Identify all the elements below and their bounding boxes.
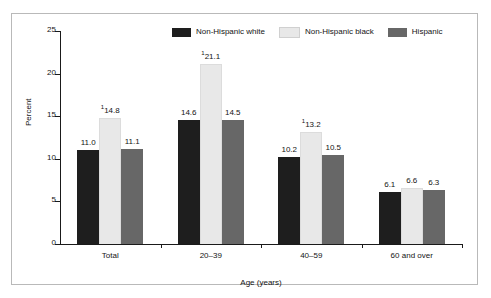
x-axis-category-label: 60 and over [391, 252, 433, 260]
x-tick-mark [462, 244, 463, 248]
x-axis-category-label: 40–59 [300, 252, 322, 260]
bar-group: 14.6121.114.5 [178, 31, 244, 244]
bar-group-bars: 10.2113.210.5 [278, 31, 344, 244]
bar-group-bars: 14.6121.114.5 [178, 31, 244, 244]
bar-group-bars: 11.0114.811.1 [77, 31, 143, 244]
bar-value-label: 121.1 [201, 53, 220, 61]
bar-rect [121, 149, 143, 244]
y-tick-label: 25 [47, 26, 56, 34]
y-axis-title: Percent [24, 98, 33, 126]
bar-value-label: 114.8 [101, 107, 120, 115]
x-tick-mark [261, 244, 262, 248]
bar-rect [300, 132, 322, 244]
x-axis-category-label: 20–39 [200, 252, 222, 260]
bar-rect [77, 150, 99, 244]
bar-group: 6.16.66.3 [379, 31, 445, 244]
bar-value-label: 14.6 [181, 109, 197, 117]
bar-value-label: 113.2 [302, 121, 321, 129]
bar-rect [222, 120, 244, 244]
bar-value-label: 6.3 [428, 179, 439, 187]
bar-value-label: 14.5 [225, 109, 241, 117]
bar-value-label: 11.1 [125, 138, 140, 146]
bar-value-label: 11.0 [81, 139, 96, 147]
bar-value-label: 6.6 [406, 177, 417, 185]
bar-rect [322, 155, 344, 244]
bar-value-footnote-marker: 1 [302, 118, 305, 124]
bar-value-label: 10.2 [281, 146, 297, 154]
x-tick-mark [161, 244, 162, 248]
bar-value-label: 6.1 [384, 181, 395, 189]
chart-plot-area: Percent 0510152025 11.0114.811.1Total14.… [60, 31, 462, 244]
chart-figure-frame: Non-Hispanic white Non-Hispanic black Hi… [11, 13, 478, 285]
bar-rect [423, 190, 445, 244]
bar-rect [379, 192, 401, 244]
bar-rect [401, 188, 423, 244]
bar-rect [178, 120, 200, 244]
x-tick-mark [362, 244, 363, 248]
y-axis-line [60, 31, 61, 244]
bar-value-footnote-marker: 1 [101, 104, 104, 110]
bar-value-label: 10.5 [325, 144, 341, 152]
y-tick-label: 15 [47, 111, 56, 119]
x-axis-title: Age (years) [240, 278, 281, 287]
bar-group: 10.2113.210.5 [278, 31, 344, 244]
bar-rect [99, 118, 121, 244]
y-tick-label: 20 [47, 69, 56, 77]
bar-group-bars: 6.16.66.3 [379, 31, 445, 244]
bar-rect [278, 157, 300, 244]
y-tick-label: 10 [47, 154, 56, 162]
bar-rect [200, 64, 222, 244]
x-axis-category-label: Total [102, 252, 119, 260]
bar-value-footnote-marker: 1 [201, 51, 204, 57]
y-tick-label: 0 [52, 239, 56, 247]
bar-group: 11.0114.811.1 [77, 31, 143, 244]
y-tick-label: 5 [52, 196, 56, 204]
